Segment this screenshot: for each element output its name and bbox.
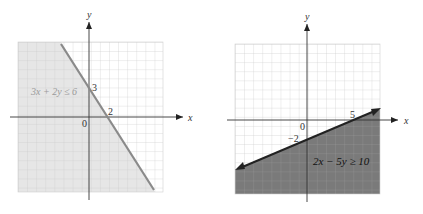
right-origin-label: 0 — [300, 121, 305, 132]
right-inequality-label: 2x − 5y ≥ 10 — [313, 155, 370, 167]
left-y-intercept-label: 3 — [92, 82, 97, 93]
left-x-intercept-label: 2 — [108, 106, 113, 117]
right-y-intercept-label: −2 — [288, 133, 299, 144]
right-y-axis-label: y — [304, 11, 310, 22]
left-y-axis-label: y — [86, 9, 92, 20]
left-inequality-label: 3x + 2y ≤ 6 — [30, 86, 77, 97]
left-graph — [10, 22, 183, 200]
left-x-axis-label: x — [187, 112, 193, 123]
left-origin-label: 0 — [82, 118, 87, 129]
right-x-intercept-label: 5 — [350, 109, 355, 120]
right-graph — [227, 24, 398, 202]
right-x-axis-label: x — [403, 115, 409, 126]
